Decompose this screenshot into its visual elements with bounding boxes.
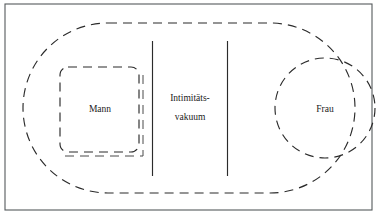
intimitaetsvakuum-label-line2: vakuum	[175, 112, 206, 122]
frau-region-label: Frau	[316, 104, 334, 114]
intimitaetsvakuum-label-line1: Intimitäts-	[170, 93, 210, 103]
concept-diagram: Mann Intimitäts- vakuum Frau	[0, 0, 381, 221]
figure-canvas: Mann Intimitäts- vakuum Frau	[0, 0, 381, 221]
mann-region-label: Mann	[89, 104, 111, 114]
